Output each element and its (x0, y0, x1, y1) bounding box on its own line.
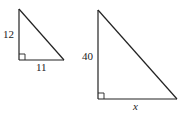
small-triangle: 12 11 (3, 9, 64, 73)
small-hypotenuse (19, 9, 64, 60)
large-hypotenuse (98, 10, 177, 99)
small-right-angle-marker (19, 54, 25, 60)
large-right-angle-marker (98, 93, 104, 99)
small-vertical-leg-label: 12 (3, 28, 14, 40)
large-triangle: 40 x (82, 10, 177, 112)
small-horizontal-leg-label: 11 (36, 61, 47, 73)
similar-triangles-diagram: 12 11 40 x (0, 0, 183, 115)
large-vertical-leg-label: 40 (82, 50, 94, 62)
large-horizontal-leg-label: x (132, 100, 138, 112)
